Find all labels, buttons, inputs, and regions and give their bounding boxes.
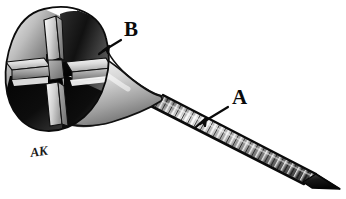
shaft-highlight bbox=[155, 98, 312, 177]
callout-a: A bbox=[196, 85, 248, 127]
figure-container: A B AK bbox=[0, 0, 346, 199]
callout-a-label: A bbox=[232, 85, 248, 109]
shaft-bottom-edge bbox=[147, 104, 304, 184]
screw-illustration: A B AK bbox=[0, 0, 346, 199]
artist-signature: AK bbox=[28, 143, 50, 161]
signature-text: AK bbox=[28, 143, 50, 161]
head-center-boss bbox=[48, 60, 64, 80]
callout-b-label: B bbox=[124, 17, 138, 41]
